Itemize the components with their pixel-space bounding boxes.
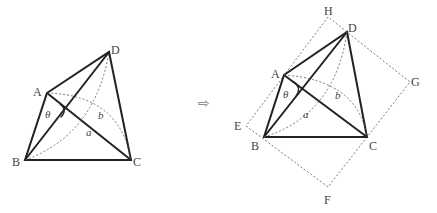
left-label-b-length: b	[98, 109, 104, 121]
left-label-theta: θ	[45, 108, 51, 120]
left-label-d-point: D	[111, 43, 120, 57]
right-label-b-length: b	[335, 89, 341, 101]
right-quadrilateral-abcd	[264, 32, 367, 137]
left-quadrilateral-abcd	[25, 52, 131, 160]
right-label-d-point: D	[348, 21, 357, 35]
left-label-b-point: B	[12, 155, 20, 169]
right-label-g-point: G	[411, 75, 420, 89]
right-diagonal-bd	[264, 32, 347, 137]
left-figure: A B C D θ a b	[12, 43, 141, 169]
left-diagonal-bd	[25, 52, 109, 160]
right-label-h-point: H	[324, 4, 333, 18]
quadrilateral-diagram: A B C D θ a b ⇨ A B C D E F G H θ a b	[0, 0, 437, 213]
transition-arrow-icon: ⇨	[198, 95, 210, 111]
left-label-a-length: a	[86, 126, 92, 138]
right-label-b-point: B	[251, 139, 259, 153]
right-label-a-length: a	[303, 108, 309, 120]
right-rectangle-efgh	[246, 17, 410, 187]
right-label-c-point: C	[369, 139, 377, 153]
right-figure: A B C D E F G H θ a b	[234, 4, 420, 207]
left-label-c-point: C	[133, 155, 141, 169]
right-label-a-point: A	[271, 67, 280, 81]
right-label-f-point: F	[324, 193, 331, 207]
left-label-a-point: A	[33, 85, 42, 99]
right-label-e-point: E	[234, 119, 241, 133]
right-label-theta: θ	[283, 88, 289, 100]
